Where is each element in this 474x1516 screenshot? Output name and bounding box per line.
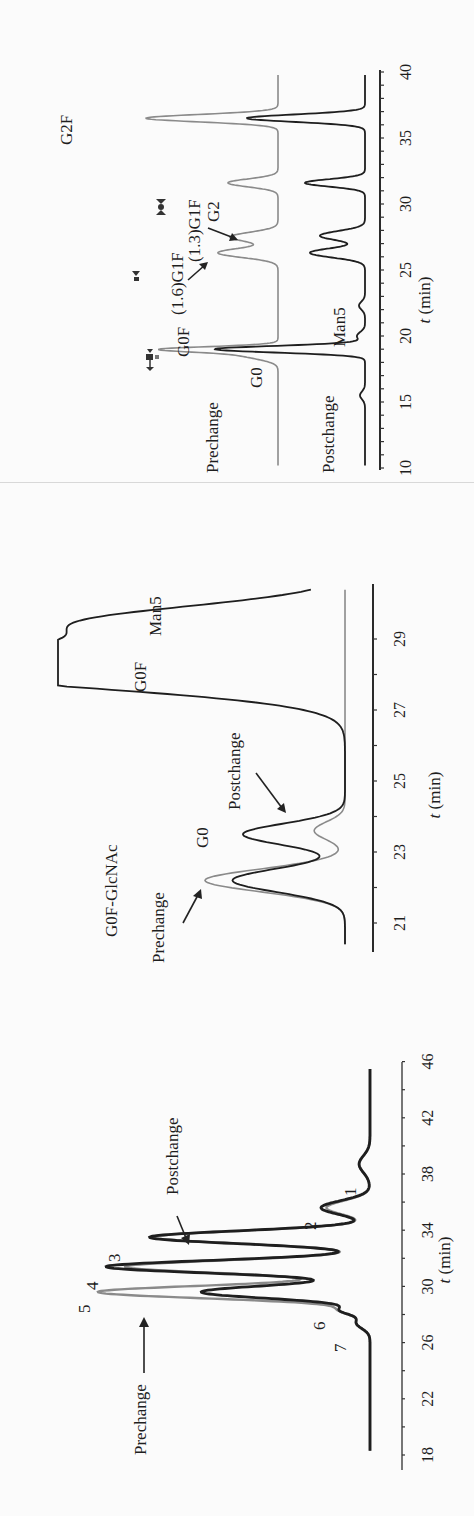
arrowhead-icon: [277, 803, 286, 813]
tick-label: 30: [397, 196, 414, 212]
chart-b-ticks: 2123252729: [373, 631, 408, 931]
tick-label: 30: [419, 1278, 436, 1294]
chart-c-label-prechange: Prechange: [131, 1384, 150, 1455]
chart-a-label-prechange: Prechange: [203, 402, 222, 473]
chart-c-label-5: 5: [75, 1305, 94, 1314]
tick-label: 46: [419, 1054, 436, 1070]
chart-c-x-label: t (min): [435, 1237, 454, 1284]
tick-label: 34: [419, 1222, 436, 1238]
chart-a-label-g2: G2: [204, 201, 223, 222]
chart-b: 2123252729 t (min) G0F-GlcNAc Prechange …: [58, 584, 444, 963]
chart-b-label-g0f: G0F: [131, 662, 150, 692]
tick-label: 18: [419, 1447, 436, 1463]
chart-c-label-postchange: Postchange: [163, 1118, 182, 1195]
glycan-symbol-icon-g2: [156, 199, 166, 215]
tick-label: 23: [391, 844, 408, 860]
chart-c-label-4: 4: [83, 1281, 102, 1290]
chart-b-x-label: t (min): [425, 772, 444, 819]
tick-label: 22: [419, 1391, 436, 1407]
arrowhead-icon: [139, 1317, 149, 1327]
chart-b-label-g0: G0: [193, 827, 212, 848]
figure-canvas: 10152025303540 t (min) Prechange G0 Post…: [0, 0, 474, 1516]
chart-c-ticks: 1822263034384246: [402, 1054, 436, 1463]
chart-c-label-2: 2: [301, 1222, 320, 1231]
chart-b-arrow-postchange: [256, 773, 282, 808]
tick-label: 27: [391, 702, 408, 718]
tick-label: 38: [419, 1166, 436, 1182]
chart-a-arrow-13g1f: [208, 228, 234, 238]
glycan-symbol-icon-g0f: [146, 349, 159, 371]
chart-b-label-man5: Man5: [146, 596, 165, 636]
tick-label: 21: [391, 915, 408, 931]
chart-c-label-7: 7: [331, 1343, 350, 1352]
chart-a-label-13g1f: (1.3)G1F: [185, 199, 204, 262]
tick-label: 25: [391, 773, 408, 789]
chart-a-label-postchange: Postchange: [319, 396, 338, 473]
chart-a-x-label: t (min): [415, 277, 434, 324]
tick-label: 35: [397, 130, 414, 146]
chart-a: 10152025303540 t (min) Prechange G0 Post…: [57, 64, 434, 476]
tick-label: 26: [419, 1335, 436, 1351]
tick-label: 29: [391, 631, 408, 647]
tick-label: 20: [397, 328, 414, 344]
chart-a-label-g0: G0: [247, 367, 266, 388]
chart-a-label-g0f: G0F: [174, 327, 193, 357]
tick-label: 25: [397, 262, 414, 278]
chart-b-label-prechange: Prechange: [149, 892, 168, 963]
chart-b-arrow-prechange: [183, 895, 198, 923]
chart-a-ticks: 10152025303540: [380, 64, 414, 476]
chart-c-label-1: 1: [341, 1188, 360, 1197]
chart-b-label-postchange: Postchange: [225, 733, 244, 810]
arrowhead-icon: [193, 889, 202, 899]
tick-label: 10: [397, 460, 414, 476]
tick-label: 40: [397, 64, 414, 80]
chart-b-label-g0fglcnac: G0F-GlcNAc: [102, 844, 121, 937]
glycan-symbol-icon-g1f: [132, 271, 140, 281]
chart-a-label-man5: Man5: [330, 307, 349, 347]
chart-c: 1822263034384246 t (min) Prechange Postc…: [75, 1054, 454, 1470]
chart-a-postchange-trace: [215, 75, 365, 466]
chart-a-label-g2f: G2F: [57, 115, 76, 145]
chart-c-label-3: 3: [105, 1254, 124, 1263]
tick-label: 42: [419, 1110, 436, 1126]
tick-label: 15: [397, 394, 414, 410]
chart-c-label-6: 6: [310, 1322, 329, 1331]
